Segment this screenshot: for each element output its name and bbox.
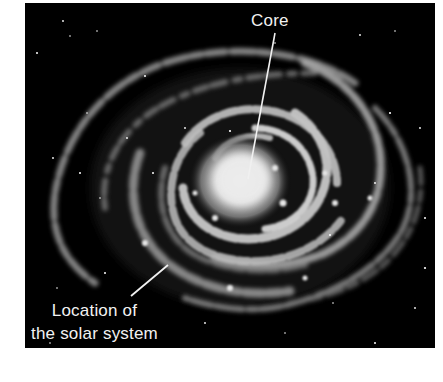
spiral-galaxy-image bbox=[25, 3, 435, 348]
galaxy-figure: Core Location of the solar system bbox=[25, 3, 435, 348]
core-label: Core bbox=[251, 11, 289, 31]
solar-system-label: Location of the solar system bbox=[31, 299, 158, 345]
solar-system-label-line-1: Location of bbox=[31, 299, 158, 322]
solar-system-label-line-2: the solar system bbox=[31, 322, 158, 345]
